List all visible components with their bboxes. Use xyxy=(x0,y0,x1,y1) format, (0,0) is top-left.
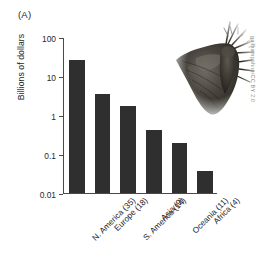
x-axis-line xyxy=(63,193,217,194)
y-axis-tick-label: 0.1 xyxy=(44,151,56,161)
y-axis-tick-label: 10 xyxy=(47,73,56,83)
moth-photograph-icon xyxy=(168,14,260,120)
y-axis-tick: 1 xyxy=(59,116,63,117)
y-axis-tick: 0.01 xyxy=(59,194,63,195)
y-axis-tick: 0.1 xyxy=(59,155,63,156)
y-axis-title: Billions of dollars xyxy=(16,2,26,132)
figure-panel: (A) Billions of dollars 1001010.10.01 N.… xyxy=(0,0,280,269)
y-axis-tick-label: 100 xyxy=(42,34,56,44)
y-axis-tick: 10 xyxy=(59,77,63,78)
y-axis-tick: 100 xyxy=(59,38,63,39)
image-credit: gailhampshire/CC BY 2.0 xyxy=(250,36,256,146)
x-axis-labels: N. America (35)Europe (18)S. America (14… xyxy=(63,196,223,268)
bar xyxy=(197,171,212,193)
bar xyxy=(172,143,187,193)
bar xyxy=(146,130,161,193)
y-axis-tick-label: 1 xyxy=(51,112,56,122)
bar xyxy=(69,60,84,193)
y-axis-tick-label: 0.01 xyxy=(40,190,56,200)
bar xyxy=(95,94,110,193)
bar xyxy=(120,106,135,193)
x-axis-label: Asia (9) xyxy=(159,196,185,222)
